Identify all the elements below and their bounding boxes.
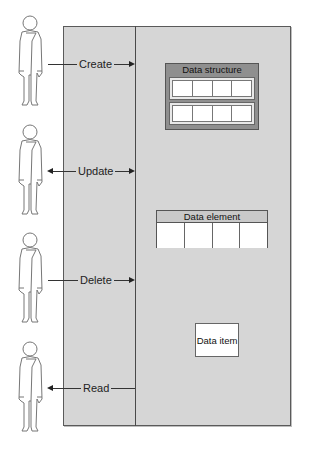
data-structure-title: Data structure — [166, 64, 258, 75]
data-cell — [231, 80, 252, 97]
data-cell — [157, 223, 185, 248]
data-cell — [172, 80, 193, 97]
arrow-right-icon — [129, 277, 135, 283]
interface-divider — [135, 26, 136, 426]
user-figure-icon — [14, 15, 48, 107]
data-cell — [172, 105, 193, 122]
data-element: Data element — [156, 210, 268, 248]
data-cell — [231, 105, 252, 122]
data-item: Data item — [195, 323, 239, 357]
operation-label-update: Update — [76, 165, 115, 178]
operation-label-create: Create — [77, 58, 114, 71]
data-structure: Data structure — [165, 63, 259, 130]
arrow-right-icon — [129, 168, 135, 174]
arrow-right-icon — [129, 61, 135, 67]
data-element-cells — [157, 223, 267, 248]
data-cell — [192, 105, 213, 122]
data-cell — [192, 80, 213, 97]
operation-label-delete: Delete — [78, 274, 114, 287]
data-cell — [212, 105, 233, 122]
operation-label-read: Read — [81, 382, 111, 395]
data-cell — [185, 223, 213, 248]
data-structure-row — [169, 102, 255, 125]
user-figure-icon — [14, 124, 48, 216]
arrow-left-icon — [47, 168, 53, 174]
data-cell — [213, 223, 241, 248]
user-figure-icon — [14, 232, 48, 324]
user-figure-icon — [14, 341, 48, 433]
arrow-left-icon — [47, 385, 53, 391]
data-cell — [240, 223, 267, 248]
data-structure-row — [169, 77, 255, 100]
data-element-title: Data element — [157, 211, 267, 223]
data-cell — [212, 80, 233, 97]
